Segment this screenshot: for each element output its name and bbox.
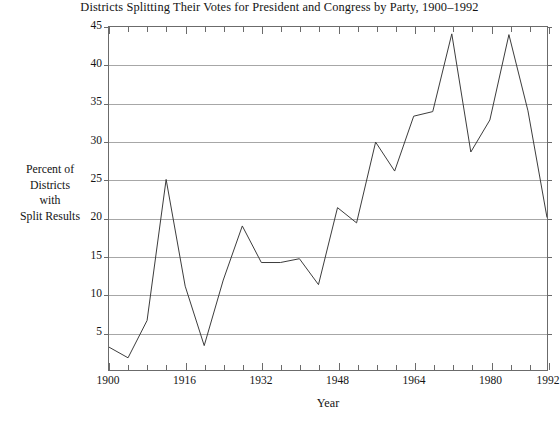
- y-tick-mark-5: [547, 334, 552, 335]
- x-tick-label-1992: 1992: [537, 374, 560, 386]
- y-tick-mark-30: [547, 142, 552, 143]
- y-tick-label-25: 25: [91, 172, 103, 184]
- x-axis-tick-labels: 1900191619321948196419801992: [108, 374, 548, 392]
- y-tick-label-20: 20: [91, 210, 103, 222]
- series-plot: [109, 27, 547, 370]
- y-tick-label-10: 10: [91, 287, 103, 299]
- y-tick-mark-20: [547, 219, 552, 220]
- y-tick-mark-35: [547, 104, 552, 105]
- y-axis-tick-labels: 51015202530354045: [64, 26, 102, 371]
- x-tick-mark-1992: [549, 363, 550, 370]
- x-tick-mark-1992: [549, 27, 550, 34]
- x-tick-label-1900: 1900: [97, 374, 120, 386]
- y-tick-mark-15: [547, 257, 552, 258]
- y-tick-mark-40: [547, 65, 552, 66]
- y-tick-mark-10: [547, 295, 552, 296]
- y-tick-label-15: 15: [91, 249, 103, 261]
- x-tick-label-1948: 1948: [326, 374, 349, 386]
- y-tick-mark-25: [547, 180, 552, 181]
- x-tick-label-1916: 1916: [173, 374, 196, 386]
- y-tick-label-5: 5: [96, 325, 102, 337]
- x-tick-label-1980: 1980: [479, 374, 502, 386]
- y-tick-label-30: 30: [91, 134, 103, 146]
- x-tick-label-1932: 1932: [250, 374, 273, 386]
- x-tick-label-1964: 1964: [403, 374, 426, 386]
- x-axis-title: Year: [108, 396, 548, 411]
- chart-title: Districts Splitting Their Votes for Pres…: [0, 0, 559, 15]
- page-edge-artifact: [300, 417, 559, 425]
- plot-area: [108, 26, 548, 371]
- y-tick-label-40: 40: [91, 57, 103, 69]
- y-tick-label-45: 45: [91, 19, 103, 31]
- y-tick-label-35: 35: [91, 95, 103, 107]
- split-results-line: [109, 34, 547, 358]
